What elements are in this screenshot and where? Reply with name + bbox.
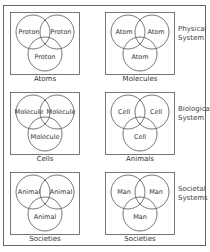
venn-panel: Animal Animal Animal Societies bbox=[10, 172, 80, 244]
panel-caption: Atoms bbox=[10, 75, 80, 83]
circle-label-left: Atom bbox=[115, 28, 132, 36]
circle-label-right: Proton bbox=[51, 28, 72, 36]
venn-panel: Molecule Molecule Molecule Cells bbox=[10, 92, 80, 164]
circle-label-bottom: Molecule bbox=[31, 133, 60, 141]
circle-label-right: Atom bbox=[147, 28, 164, 36]
panel-caption: Cells bbox=[10, 155, 80, 163]
venn-diagram: Cell Cell Cell bbox=[105, 92, 175, 155]
circle-label-left: Proton bbox=[19, 28, 40, 36]
venn-panel: Man Man Man Societies bbox=[105, 172, 175, 244]
system-label: Physical System bbox=[178, 25, 206, 43]
venn-panel: Proton Proton Proton Atoms bbox=[10, 12, 80, 84]
system-label: Societal Systems bbox=[178, 185, 208, 203]
venn-diagram: Molecule Molecule Molecule bbox=[10, 92, 80, 155]
system-label: Biological System bbox=[178, 105, 210, 123]
circle-label-left: Animal bbox=[18, 188, 41, 196]
circle-label-right: Animal bbox=[50, 188, 73, 196]
venn-panel: Atom Atom Atom Molecules bbox=[105, 12, 175, 84]
circle-label-bottom: Animal bbox=[34, 213, 57, 221]
circle-label-bottom: Man bbox=[133, 213, 147, 221]
venn-diagram: Man Man Man bbox=[105, 172, 175, 235]
circle-label-bottom: Proton bbox=[35, 53, 56, 61]
circle-label-bottom: Atom bbox=[131, 53, 148, 61]
circle-label-right: Cell bbox=[150, 108, 162, 116]
panel-caption: Molecules bbox=[105, 75, 175, 83]
circle-label-right: Molecule bbox=[47, 108, 76, 116]
circle-label-left: Cell bbox=[118, 108, 130, 116]
circle-label-right: Man bbox=[149, 188, 163, 196]
circle-label-left: Molecule bbox=[15, 108, 44, 116]
panel-caption: Societies bbox=[10, 235, 80, 243]
circle-label-left: Man bbox=[117, 188, 131, 196]
panel-caption: Societies bbox=[105, 235, 175, 243]
venn-diagram: Animal Animal Animal bbox=[10, 172, 80, 235]
circle-label-bottom: Cell bbox=[134, 133, 146, 141]
venn-diagram: Proton Proton Proton bbox=[10, 12, 80, 75]
venn-panel: Cell Cell Cell Animals bbox=[105, 92, 175, 164]
panel-caption: Animals bbox=[105, 155, 175, 163]
venn-diagram: Atom Atom Atom bbox=[105, 12, 175, 75]
